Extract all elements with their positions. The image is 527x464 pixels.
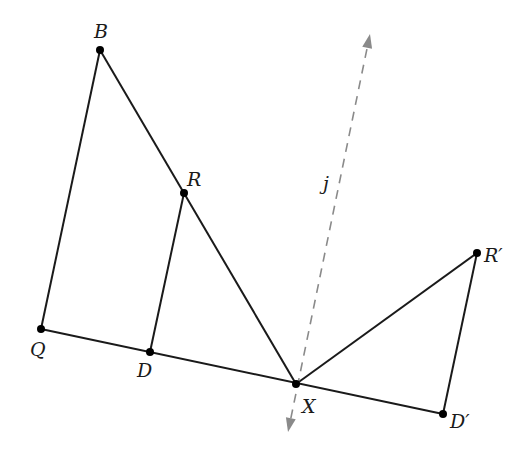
segment-rp-dp bbox=[443, 253, 477, 414]
segment-b-q bbox=[41, 50, 100, 329]
arrow-down-icon bbox=[286, 417, 296, 432]
segment-x-rp bbox=[296, 253, 477, 384]
segments-group bbox=[41, 50, 477, 414]
segment-b-x bbox=[100, 50, 296, 384]
segment-r-d bbox=[150, 193, 184, 352]
point-x bbox=[292, 380, 300, 388]
segment-q-dp bbox=[41, 329, 443, 414]
arrow-up-icon bbox=[362, 34, 372, 49]
label-dp: D′ bbox=[449, 410, 470, 432]
label-r: R bbox=[186, 168, 201, 190]
point-q bbox=[37, 325, 45, 333]
point-r bbox=[180, 189, 188, 197]
point-b bbox=[96, 46, 104, 54]
label-q: Q bbox=[30, 338, 46, 360]
point-d bbox=[146, 348, 154, 356]
points-group bbox=[37, 46, 481, 418]
label-b: B bbox=[93, 20, 108, 42]
geometry-diagram: BRQDXR′D′j bbox=[0, 0, 527, 464]
reflection-line-j bbox=[286, 34, 372, 432]
label-line-j: j bbox=[319, 172, 329, 194]
labels-group: BRQDXR′D′j bbox=[30, 20, 503, 432]
point-rp bbox=[473, 249, 481, 257]
label-d: D bbox=[136, 359, 152, 381]
point-dp bbox=[439, 410, 447, 418]
label-x: X bbox=[300, 395, 317, 417]
label-rp: R′ bbox=[483, 244, 503, 266]
reflection-line-dashed bbox=[291, 48, 367, 419]
